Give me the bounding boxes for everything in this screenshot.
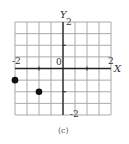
y-max-tick-label: 2	[66, 18, 72, 27]
axes	[15, 22, 111, 115]
data-point	[36, 88, 43, 95]
x-min-tick-label: -2	[12, 57, 21, 66]
scatter-plot	[0, 0, 129, 144]
origin-label: 0	[56, 58, 62, 67]
data-point	[12, 77, 19, 84]
x-max-tick-label: 2	[108, 57, 114, 66]
x-axis-label: X	[114, 64, 121, 74]
y-min-tick-label: -2	[70, 110, 79, 119]
figure-caption: (c)	[58, 127, 69, 135]
